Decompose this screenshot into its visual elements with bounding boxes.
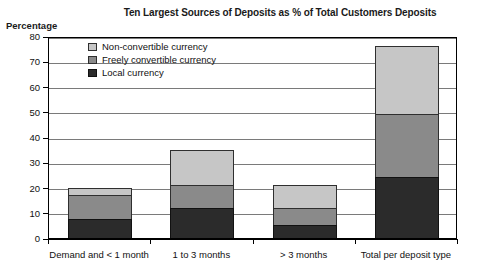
y-tick-label: 40 <box>0 133 40 143</box>
y-tick-label: 20 <box>0 184 40 194</box>
x-tick-mark <box>150 239 151 244</box>
y-tick-label: 30 <box>0 158 40 168</box>
chart-container: Percentage Ten Largest Sources of Deposi… <box>0 0 480 276</box>
bar-segment-freely <box>375 114 439 177</box>
x-tick-mark <box>457 239 458 244</box>
bar-segment-nonconv <box>375 46 439 114</box>
bar-segment-nonconv <box>68 188 132 196</box>
bar-segment-freely <box>273 208 337 226</box>
bar-segment-local <box>68 219 132 238</box>
y-tick-label: 80 <box>0 32 40 42</box>
bar-segment-local <box>273 225 337 238</box>
x-tick-label-4: Total per deposit type <box>355 249 457 260</box>
legend-item-nonconv: Non-convertible currency <box>88 42 216 52</box>
legend-label: Non-convertible currency <box>102 42 208 52</box>
x-tick-label-2: 1 to 3 months <box>150 249 252 260</box>
chart-legend: Non-convertible currencyFreely convertib… <box>88 42 216 78</box>
bar-segment-local <box>170 208 234 238</box>
legend-item-local: Local currency <box>88 68 216 78</box>
y-tick-label: 0 <box>0 234 40 244</box>
legend-label: Freely convertible currency <box>102 55 216 65</box>
bar-segment-nonconv <box>170 150 234 185</box>
bar-2 <box>170 150 234 238</box>
chart-title: Ten Largest Sources of Deposits as % of … <box>110 7 450 19</box>
legend-swatch-freely-icon <box>88 56 97 64</box>
x-tick-mark <box>48 239 49 244</box>
legend-label: Local currency <box>102 68 164 78</box>
y-tick-label: 50 <box>0 108 40 118</box>
x-tick-mark <box>253 239 254 244</box>
bar-segment-freely <box>68 195 132 219</box>
x-tick-label-3: > 3 months <box>253 249 355 260</box>
legend-swatch-local-icon <box>88 69 97 77</box>
y-axis-title: Percentage <box>6 20 57 31</box>
legend-swatch-nonconv-icon <box>88 43 97 51</box>
bar-segment-local <box>375 177 439 238</box>
bar-3 <box>273 185 337 238</box>
y-tick-label: 70 <box>0 57 40 67</box>
y-tick-label: 10 <box>0 209 40 219</box>
legend-item-freely: Freely convertible currency <box>88 55 216 65</box>
x-tick-label-1: Demand and < 1 month <box>48 249 150 260</box>
x-tick-mark <box>355 239 356 244</box>
bar-1 <box>68 188 132 238</box>
bar-segment-nonconv <box>273 185 337 208</box>
bar-4 <box>375 46 439 238</box>
y-tick-label: 60 <box>0 83 40 93</box>
bar-segment-freely <box>170 185 234 208</box>
